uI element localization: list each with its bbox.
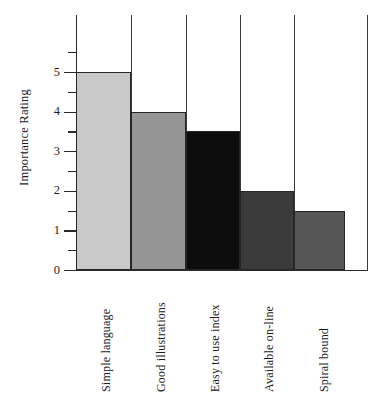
plot-area: Importance Rating 0 1 2 3 4 5: [0, 0, 383, 399]
bar-simple-language: [76, 72, 131, 270]
x-axis-line: [76, 270, 368, 271]
x-category-label-spiral-bound: Spiral bound: [317, 328, 332, 392]
y-tick-label-3: 3: [34, 145, 60, 158]
y-tick-label-2: 2: [34, 184, 60, 197]
bar-spiral-bound: [294, 211, 345, 270]
y-tick-label-1: 1: [34, 224, 60, 237]
x-category-label-good-illustrations: Good illustrations: [154, 302, 169, 392]
y-tick-label-0: 0: [34, 264, 60, 277]
y-tick-label-5: 5: [34, 66, 60, 79]
bar-easy-to-use-index: [186, 131, 240, 270]
category-separator-5: [367, 15, 368, 271]
bar-available-on-line: [240, 191, 294, 270]
x-category-label-available-on-line: Available on-line: [262, 306, 277, 392]
y-tick-minor-5-5: [68, 52, 77, 53]
x-category-label-easy-to-use-index: Easy to use index: [208, 304, 223, 392]
y-tick-0: [64, 270, 77, 271]
x-category-label-simple-language: Simple language: [99, 309, 114, 392]
bar-good-illustrations: [131, 112, 186, 270]
y-axis-title: Importance Rating: [17, 48, 32, 228]
y-tick-label-4: 4: [34, 105, 60, 118]
bar-chart: Importance Rating 0 1 2 3 4 5: [0, 0, 383, 399]
